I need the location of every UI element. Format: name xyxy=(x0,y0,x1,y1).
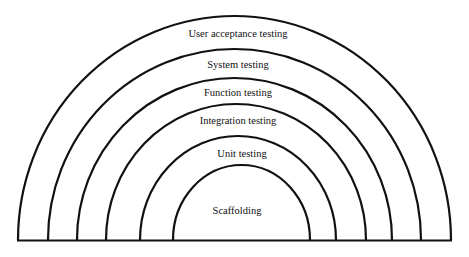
label-integration-testing: Integration testing xyxy=(200,115,277,126)
label-function-testing: Function testing xyxy=(204,87,273,98)
testing-layers-diagram: User acceptance testing System testing F… xyxy=(0,0,469,257)
label-user-acceptance-testing: User acceptance testing xyxy=(188,28,288,39)
label-unit-testing: Unit testing xyxy=(217,148,267,159)
arc-scaffolding xyxy=(173,165,310,240)
label-system-testing: System testing xyxy=(207,59,269,70)
label-scaffolding: Scaffolding xyxy=(213,205,263,216)
